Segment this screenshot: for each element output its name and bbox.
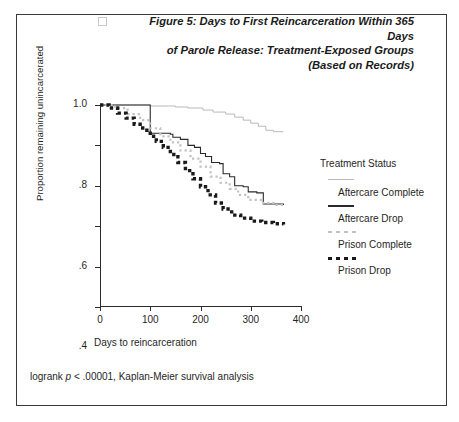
legend-item: Aftercare Drop [320, 202, 442, 224]
footnote: logrank p < .00001, Kaplan-Meier surviva… [30, 371, 254, 382]
legend-line-sample [328, 176, 442, 184]
legend-item-label: Prison Drop [338, 265, 442, 276]
x-tick-label: 300 [242, 314, 259, 325]
curve-prison-complete [100, 105, 283, 206]
y-tick-label: .6 [79, 260, 87, 271]
legend-line-sample [328, 254, 442, 262]
figure-title-line-2: of Parole Release: Treatment-Exposed Gro… [122, 43, 414, 58]
y-tick-label: .8 [79, 179, 87, 190]
empty-square-bullet-icon [98, 17, 107, 26]
scan-header-text [0, 0, 459, 12]
legend-item: Aftercare Complete [320, 176, 442, 198]
x-tick-label: 100 [142, 314, 159, 325]
legend-line-sample [328, 202, 442, 210]
figure-title: Figure 5: Days to First Reincarceration … [122, 14, 414, 72]
x-axis-label: Days to reincarceration [94, 337, 197, 348]
legend-line-sample [328, 228, 442, 236]
y-tick-label: 1.0 [73, 98, 87, 109]
legend-item-label: Aftercare Drop [338, 213, 442, 224]
footnote-suffix: < .00001, Kaplan-Meier survival analysis [71, 371, 254, 382]
legend-item-label: Prison Complete [338, 239, 442, 250]
x-tick [301, 306, 302, 311]
x-tick-label: 400 [293, 314, 310, 325]
figure-page: Figure 5: Days to First Reincarceration … [0, 0, 459, 422]
legend-item: Prison Complete [320, 228, 442, 250]
legend-heading: Treatment Status [320, 158, 442, 169]
figure-title-line-3: (Based on Records) [122, 58, 414, 73]
x-tick-label: 200 [192, 314, 209, 325]
figure-title-row: Figure 5: Days to First Reincarceration … [84, 14, 414, 72]
footnote-prefix: logrank [30, 371, 66, 382]
figure-title-line-1: Figure 5: Days to First Reincarceration … [122, 14, 414, 43]
curve-aftercare-drop [100, 105, 283, 205]
plot-inner: .0.2.4.6.81.00100200300400 [100, 105, 301, 307]
legend: Treatment Status Aftercare CompleteAfter… [320, 158, 442, 280]
survival-plot: .0.2.4.6.81.00100200300400 Proportion re… [100, 105, 301, 307]
legend-item-label: Aftercare Complete [338, 187, 442, 198]
y-tick-label: .4 [79, 340, 87, 351]
legend-items: Aftercare CompleteAftercare DropPrison C… [320, 176, 442, 276]
x-tick-label: 0 [97, 314, 103, 325]
legend-item: Prison Drop [320, 254, 442, 276]
y-axis-label: Proportion remaining unincarcerated [34, 46, 45, 201]
survival-curves [100, 105, 301, 307]
